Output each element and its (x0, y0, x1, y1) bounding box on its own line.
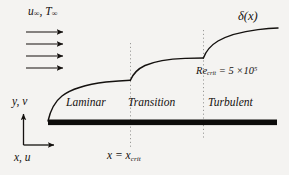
xcrit-label: x = xcrit (107, 150, 141, 163)
region-label-turbulent: Turbulent (208, 97, 253, 109)
boundary-layer-diagram (0, 0, 289, 175)
flat-plate (48, 120, 277, 126)
freestream-conditions-label: u∞, T∞ (28, 6, 57, 18)
region-label-transition: Transition (128, 97, 175, 109)
reynolds-critical-label: Recrit = 5 ×105 (196, 66, 257, 77)
boundary-layer-thickness-label: δ(x) (238, 10, 258, 23)
boundary-layer-curve-turbulent (203, 28, 278, 58)
axis-label-vertical: y, v (12, 96, 27, 108)
boundary-layer-curve-transition (130, 58, 203, 80)
coordinate-axes (24, 114, 55, 145)
region-label-laminar: Laminar (66, 97, 106, 109)
flow-arrow-group (26, 32, 63, 68)
axis-label-horizontal: x, u (14, 152, 31, 164)
